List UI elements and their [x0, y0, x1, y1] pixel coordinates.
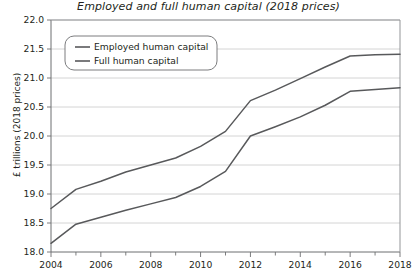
x-tick-label: 2016	[338, 259, 362, 270]
x-tick-label: 2018	[388, 259, 412, 270]
x-tick-label: 2004	[39, 259, 63, 270]
y-tick-label: 21.0	[24, 72, 45, 83]
chart-legend: Employed human capitalFull human capital	[65, 36, 217, 70]
chart-plot-area: 18.018.519.019.520.020.521.021.522.0 200…	[0, 0, 417, 279]
y-tick-labels-group: 18.018.519.019.520.020.521.021.522.0	[24, 14, 45, 257]
x-tick-label: 2010	[189, 259, 213, 270]
x-tick-label: 2008	[139, 259, 163, 270]
x-tick-label: 2012	[239, 259, 262, 270]
series-line-0	[51, 54, 400, 208]
y-tick-label: 18.0	[24, 246, 45, 257]
y-tick-label: 22.0	[24, 14, 45, 25]
legend-label-1: Full human capital	[94, 55, 178, 66]
y-tick-label: 21.5	[24, 43, 45, 54]
x-tick-label: 2014	[289, 259, 313, 270]
y-tick-label: 19.5	[24, 159, 45, 170]
y-tick-label: 19.0	[24, 188, 45, 199]
x-tick-label: 2006	[89, 259, 113, 270]
data-series-group	[51, 54, 400, 243]
y-tick-label: 20.0	[24, 130, 45, 141]
chart-figure: Employed and full human capital (2018 pr…	[0, 0, 417, 279]
series-line-1	[51, 88, 400, 243]
y-tick-label: 20.5	[24, 101, 45, 112]
x-tick-labels-group: 20042006200820102012201420162018	[39, 259, 412, 270]
legend-label-0: Employed human capital	[94, 41, 208, 52]
y-tick-label: 18.5	[24, 217, 45, 228]
